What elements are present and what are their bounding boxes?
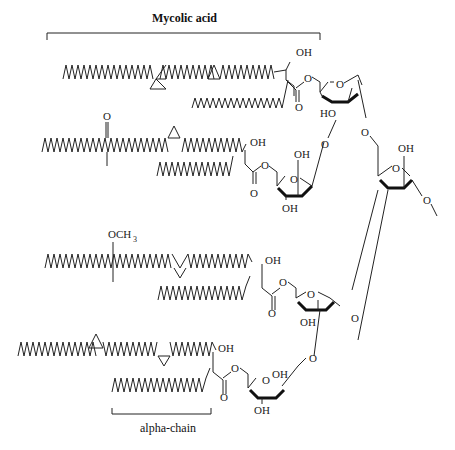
svg-text:3: 3 — [133, 235, 137, 244]
ester-o: O — [279, 276, 287, 288]
alpha-bracket — [112, 408, 211, 414]
mycolate-4: OH O O O OH OH — [18, 334, 306, 416]
oh-label: OH — [282, 202, 298, 214]
oh-label: OH — [398, 142, 414, 154]
ho-label: HO — [320, 107, 336, 119]
keto-o: O — [103, 110, 111, 122]
carbonyl-o: O — [250, 187, 258, 199]
link-o: O — [321, 138, 329, 150]
oh-label: OH — [218, 342, 234, 354]
ester-o: O — [231, 362, 239, 374]
oh-label: OH — [250, 136, 266, 148]
link-o: O — [309, 352, 317, 364]
oh-label: OH — [254, 404, 270, 416]
ester-o: O — [304, 72, 312, 84]
terminal-o: O — [423, 194, 431, 206]
mycolate-1: OH O O O HO — [63, 46, 366, 119]
central-sugar: O O OH O — [352, 126, 437, 340]
carbonyl-o: O — [220, 391, 228, 403]
mycolate-3: OCH 3 OH O O O OH O O — [45, 228, 359, 364]
methoxy-label: OCH — [108, 228, 131, 240]
carbonyl-o: O — [268, 307, 276, 319]
link-o: O — [351, 312, 359, 324]
oh-label: OH — [294, 148, 310, 160]
oh-label: OH — [272, 368, 288, 380]
ring-o: O — [307, 288, 315, 300]
ring-o: O — [336, 78, 344, 90]
oh-label: OH — [265, 254, 281, 266]
oh-label: OH — [296, 46, 312, 58]
diagram-title: Mycolic acid — [152, 11, 217, 25]
mycolic-bracket — [47, 33, 320, 40]
mycolate-2: O OH O O O OH OH O — [42, 110, 336, 214]
alpha-chain-label: alpha-chain — [140, 421, 196, 435]
ring-o: O — [392, 162, 400, 174]
ring-o: O — [262, 374, 270, 386]
oh-label: OH — [300, 316, 316, 328]
carbonyl-o: O — [295, 101, 303, 113]
mycolic-acid-diagram: Mycolic acid OH O O O HO O OH O — [0, 0, 455, 450]
ring-o: O — [290, 173, 298, 185]
ester-o: O — [261, 159, 269, 171]
link-o: O — [361, 126, 369, 138]
structure-svg: Mycolic acid OH O O O HO O OH O — [0, 0, 455, 450]
